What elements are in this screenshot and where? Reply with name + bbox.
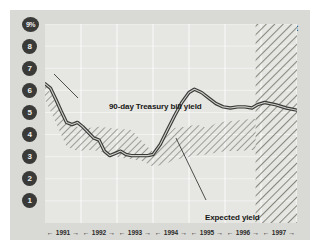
year-label: 1993	[128, 229, 142, 236]
year-label: 1992	[92, 229, 106, 236]
y-axis-tick: 8	[22, 39, 37, 54]
y-axis-tick: 2	[22, 171, 37, 186]
year-arrow-right-icon: →	[216, 229, 223, 236]
year-arrow-right-icon: →	[72, 229, 79, 236]
forecast-region	[256, 24, 297, 223]
y-axis: 9%87654321	[22, 24, 46, 223]
year-arrow-left-icon: ←	[119, 229, 126, 236]
x-axis-year: ←1995→	[189, 226, 225, 238]
y-axis-tick: 6	[22, 83, 37, 98]
year-arrow-left-icon: ←	[47, 229, 54, 236]
y-axis-tick: 5	[22, 105, 37, 120]
year-arrow-left-icon: ←	[155, 229, 162, 236]
chart-frame: Forecast 9%87654321 90-day Treasury bill…	[10, 10, 310, 240]
x-axis-year: ←1992→	[81, 226, 117, 238]
year-arrow-right-icon: →	[108, 229, 115, 236]
expected-yield-annotation-label: Expected yield	[205, 213, 260, 222]
year-label: 1995	[200, 229, 214, 236]
plot-area: 90-day Treasury bill yield Expected yiel…	[45, 24, 297, 223]
y-axis-tick: 9%	[22, 17, 39, 32]
chart-svg	[45, 24, 297, 223]
year-arrow-right-icon: →	[252, 229, 259, 236]
year-arrow-right-icon: →	[288, 229, 295, 236]
x-axis-year: ←1994→	[153, 226, 189, 238]
year-label: 1991	[56, 229, 70, 236]
x-axis: ←1991→←1992→←1993→←1994→←1995→←1996→←199…	[45, 226, 297, 240]
tbill-annotation-label: 90-day Treasury bill yield	[109, 102, 202, 111]
year-arrow-left-icon: ←	[263, 229, 270, 236]
year-label: 1994	[164, 229, 178, 236]
year-arrow-right-icon: →	[180, 229, 187, 236]
y-axis-tick: 3	[22, 149, 37, 164]
year-arrow-left-icon: ←	[83, 229, 90, 236]
x-axis-year: ←1991→	[45, 226, 81, 238]
year-arrow-left-icon: ←	[227, 229, 234, 236]
year-label: 1997	[272, 229, 286, 236]
year-arrow-left-icon: ←	[191, 229, 198, 236]
year-arrow-right-icon: →	[144, 229, 151, 236]
y-axis-tick: 7	[22, 61, 37, 76]
x-axis-year: ←1997→	[261, 226, 297, 238]
year-label: 1996	[236, 229, 250, 236]
y-axis-tick: 1	[22, 193, 37, 208]
x-axis-year: ←1996→	[225, 226, 261, 238]
y-axis-tick: 4	[22, 127, 37, 142]
x-axis-year: ←1993→	[117, 226, 153, 238]
